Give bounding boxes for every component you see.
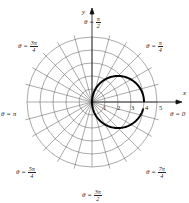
- grid-ray: [25, 84, 92, 102]
- y-axis-arrow-icon: [90, 8, 94, 14]
- grid-ray: [58, 42, 93, 102]
- x-axis-label: x: [183, 90, 186, 97]
- grid-ray: [92, 53, 141, 102]
- angle-label-pi-over-2: θ = π2: [84, 16, 101, 29]
- grid-ray: [74, 35, 92, 102]
- grid-ray: [92, 102, 159, 120]
- r-tick-1: 1: [103, 105, 106, 112]
- grid-ray: [92, 102, 152, 137]
- grid-ray: [58, 102, 93, 162]
- angle-label-5pi-over-4: θ = 5π4: [16, 166, 36, 179]
- y-axis-label: y: [82, 9, 85, 16]
- angle-label-pi-over-4: θ = π4: [146, 40, 163, 53]
- grid-ray: [43, 53, 92, 102]
- angle-label-pi: θ = π: [1, 111, 16, 118]
- x-axis-arrow-icon: [176, 100, 182, 104]
- grid-ray: [92, 102, 127, 162]
- r-tick-3: 3: [131, 105, 134, 112]
- grid-ray: [32, 68, 92, 103]
- r-tick-5: 5: [159, 105, 162, 112]
- angle-label-7pi-over-4: θ = 7π4: [146, 166, 166, 179]
- grid-ray: [25, 102, 92, 120]
- grid-ray: [74, 102, 92, 169]
- angle-label-zero: θ = 0: [170, 111, 185, 118]
- r-tick-2: 2: [117, 105, 120, 112]
- grid-ray: [43, 102, 92, 151]
- r-tick-4: 4: [145, 105, 148, 112]
- grid-ray: [32, 102, 92, 137]
- grid-ray: [92, 42, 127, 102]
- angle-label-3pi-over-4: θ = 3π4: [18, 40, 38, 53]
- angle-label-3pi-over-2: θ = 3π2: [82, 189, 102, 202]
- grid-ray: [92, 84, 159, 102]
